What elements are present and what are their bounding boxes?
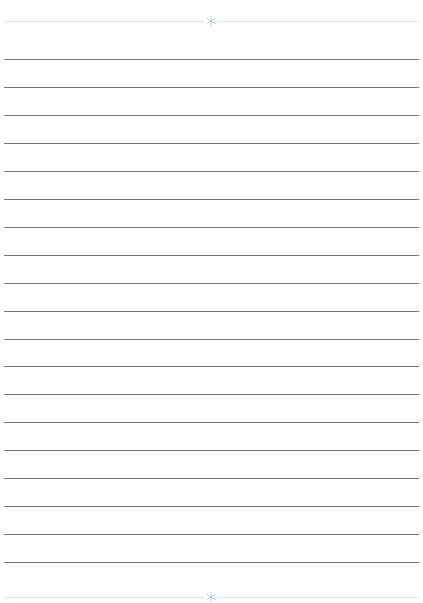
- snowflake-icon: [205, 15, 217, 27]
- ruled-line: [4, 199, 419, 200]
- ruled-line: [4, 422, 419, 423]
- ruled-line: [4, 255, 419, 256]
- ruled-line: [4, 59, 419, 60]
- ruled-line: [4, 227, 419, 228]
- lined-paper-page: [0, 0, 423, 603]
- ruled-line: [4, 366, 419, 367]
- ruled-line: [4, 171, 419, 172]
- ruled-line: [4, 339, 419, 340]
- ruled-line: [4, 534, 419, 535]
- ruled-line: [4, 478, 419, 479]
- ruled-line: [4, 143, 419, 144]
- ruled-line: [4, 506, 419, 507]
- ruled-line: [4, 394, 419, 395]
- ruled-line: [4, 115, 419, 116]
- ruled-line: [4, 450, 419, 451]
- ruled-line: [4, 283, 419, 284]
- snowflake-icon: [205, 591, 217, 603]
- ruled-line: [4, 311, 419, 312]
- ruled-line: [4, 87, 419, 88]
- ruled-line: [4, 562, 419, 563]
